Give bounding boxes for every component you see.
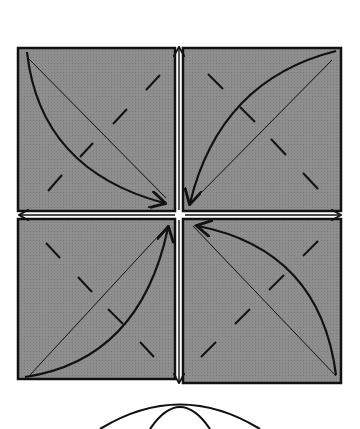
quadrant-bottom-left (18, 219, 175, 379)
next-step-shape (100, 405, 260, 429)
quadrant-top-right (183, 48, 341, 211)
fold-diagram (0, 0, 360, 429)
quadrant-bottom-right (183, 219, 341, 383)
quadrant-top-left (18, 48, 175, 211)
